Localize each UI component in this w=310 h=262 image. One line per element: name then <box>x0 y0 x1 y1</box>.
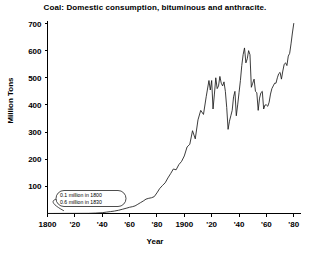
x-tick-label: '60 <box>124 220 135 229</box>
x-tick-label: '20 <box>206 220 217 229</box>
y-tick-label: 600 <box>28 47 42 56</box>
y-tick-label: 700 <box>28 20 42 29</box>
x-axis-ticks <box>48 214 294 218</box>
x-tick-label: 1800 <box>39 220 57 229</box>
x-tick-label: '40 <box>97 220 108 229</box>
callout-line-1: 0.1 million in 1800 <box>60 192 102 198</box>
x-tick-label: '20 <box>69 220 80 229</box>
chart-figure: Coal: Domestic consumption, bituminous a… <box>0 0 310 262</box>
callout-line-2: 0.6 million in 1830 <box>60 199 102 205</box>
y-tick-label: 200 <box>28 155 42 164</box>
y-tick-labels: 100200300400500600700 <box>28 20 42 192</box>
y-tick-label: 300 <box>28 128 42 137</box>
x-tick-label: '60 <box>261 220 272 229</box>
axes <box>45 21 301 218</box>
coal-consumption-line <box>48 24 294 214</box>
axis-lines <box>48 21 301 214</box>
plot-area: 100200300400500600700 1800'20'40'60'8019… <box>0 0 310 262</box>
y-tick-label: 500 <box>28 74 42 83</box>
x-tick-label: '80 <box>288 220 299 229</box>
x-tick-label: '80 <box>152 220 163 229</box>
x-tick-labels: 1800'20'40'60'801900'20'40'60'80 <box>39 220 300 229</box>
y-tick-label: 100 <box>28 182 42 191</box>
x-tick-label: 1900 <box>175 220 193 229</box>
y-tick-label: 400 <box>28 101 42 110</box>
early-values-callout: 0.1 million in 1800 0.6 million in 1830 <box>53 191 126 211</box>
x-tick-label: '40 <box>234 220 245 229</box>
